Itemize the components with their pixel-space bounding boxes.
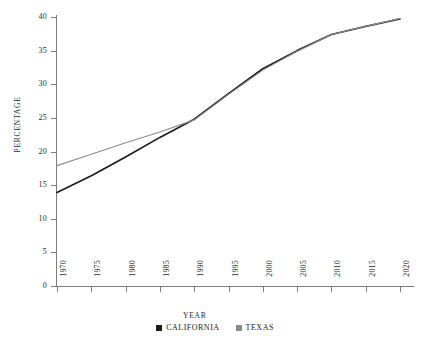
chart-legend: CALIFORNIATEXAS xyxy=(0,323,430,332)
legend-label: TEXAS xyxy=(246,323,274,332)
series-line-california xyxy=(57,19,400,193)
legend-item[interactable]: TEXAS xyxy=(236,323,274,332)
series-lines xyxy=(0,0,430,344)
legend-swatch-icon xyxy=(156,325,162,331)
series-line-texas xyxy=(57,18,400,165)
line-chart: 0510152025303540 19701975198019851990199… xyxy=(0,0,430,344)
legend-swatch-icon xyxy=(236,325,242,331)
legend-item[interactable]: CALIFORNIA xyxy=(156,323,219,332)
legend-label: CALIFORNIA xyxy=(166,323,219,332)
